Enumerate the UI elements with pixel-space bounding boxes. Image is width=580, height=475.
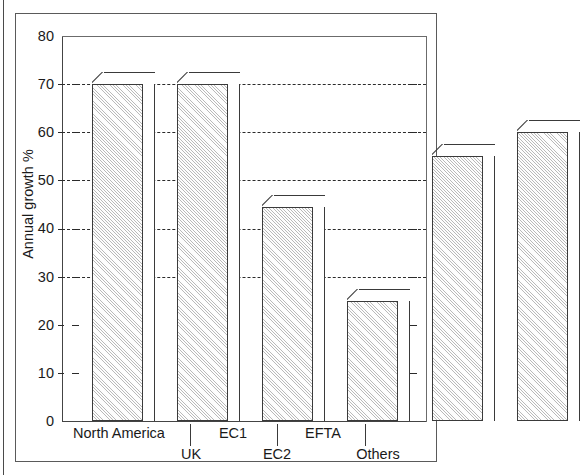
x-tick-label-efta: EFTA xyxy=(292,426,354,441)
x-tick-label-north-america: North America xyxy=(64,426,174,441)
bar-others-side-face xyxy=(568,132,580,421)
bar-others-front xyxy=(517,132,568,421)
x-leader-uk xyxy=(190,424,191,446)
x-tick-label-uk: UK xyxy=(160,447,222,462)
x-leader-ec2 xyxy=(277,424,278,446)
x-leader-others xyxy=(365,424,366,446)
bar-efta-side-face xyxy=(483,156,495,421)
x-tick-label-ec2: EC2 xyxy=(249,447,305,462)
bar-others[interactable] xyxy=(517,36,580,421)
x-tick-label-ec1: EC1 xyxy=(205,426,261,441)
bar-others-bevel xyxy=(517,120,529,132)
x-tick-label-others: Others xyxy=(340,447,416,462)
bar-others-top-face xyxy=(529,120,580,132)
bar-efta-top-face xyxy=(444,144,495,156)
